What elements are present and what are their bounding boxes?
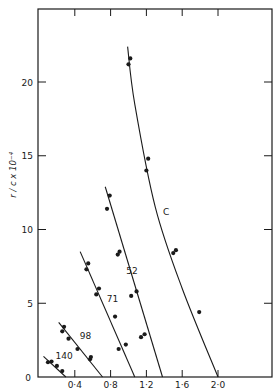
- data-point: [94, 292, 98, 296]
- data-point: [49, 359, 53, 363]
- x-tick-label: 0·4: [68, 380, 83, 390]
- data-point: [117, 250, 121, 254]
- data-point: [86, 261, 90, 265]
- y-axis-title: r / c x 10⁻⁴: [8, 152, 18, 198]
- data-point: [62, 325, 66, 329]
- curve-label: 52: [126, 266, 137, 276]
- y-tick-label: 0: [25, 373, 31, 383]
- data-point: [126, 62, 130, 66]
- data-point: [84, 267, 88, 271]
- curve-label: 98: [80, 331, 92, 341]
- x-tick-label: 1·6: [175, 380, 190, 390]
- x-tick-label: 2·0: [211, 380, 226, 390]
- right-axis-ticks: [264, 82, 272, 303]
- data-point: [117, 347, 121, 351]
- scatter-chart: 0·40·81·21·62·0 05101520 r / c x 10⁻⁴ 14…: [0, 0, 279, 391]
- y-axis-tick-labels: 05101520: [22, 78, 34, 383]
- data-point: [134, 289, 138, 293]
- x-axis-ticks: [75, 370, 218, 377]
- curve-label: 71: [107, 294, 118, 304]
- data-point: [146, 157, 150, 161]
- data-point: [46, 360, 50, 364]
- y-tick-label: 15: [22, 151, 33, 161]
- data-point: [108, 193, 112, 197]
- curve-label: C: [163, 207, 169, 217]
- data-point: [66, 337, 70, 341]
- fit-line-c: [128, 47, 218, 377]
- data-point: [97, 286, 101, 290]
- data-point: [124, 342, 128, 346]
- data-point: [139, 335, 143, 339]
- data-point: [129, 294, 133, 298]
- data-point: [174, 248, 178, 252]
- data-points: [46, 56, 201, 373]
- x-tick-label: 1·2: [139, 380, 153, 390]
- fit-lines: [43, 47, 218, 377]
- data-point: [197, 310, 201, 314]
- data-point: [144, 168, 148, 172]
- fit-line-52: [105, 187, 162, 377]
- data-point: [89, 355, 93, 359]
- y-tick-label: 20: [22, 78, 34, 88]
- data-point: [128, 56, 132, 60]
- data-point: [60, 369, 64, 373]
- data-point: [55, 364, 59, 368]
- y-tick-label: 10: [22, 225, 34, 235]
- y-axis-ticks: [38, 82, 46, 303]
- curve-label: 140: [55, 351, 72, 361]
- plot-frame: [38, 9, 272, 377]
- x-tick-label: 0·8: [103, 380, 118, 390]
- data-point: [113, 314, 117, 318]
- top-axis-ticks: [75, 9, 218, 16]
- data-point: [143, 332, 147, 336]
- data-point: [60, 329, 64, 333]
- y-tick-label: 5: [27, 299, 33, 309]
- x-axis-tick-labels: 0·40·81·21·62·0: [68, 380, 226, 390]
- data-point: [75, 347, 79, 351]
- data-point: [105, 207, 109, 211]
- curve-labels: 140987152C: [55, 207, 169, 362]
